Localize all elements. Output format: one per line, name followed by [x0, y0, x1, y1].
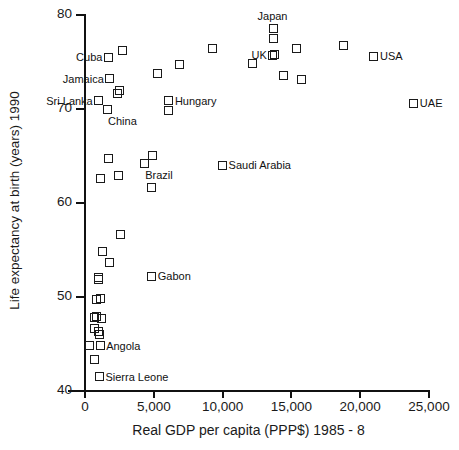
data-point-label: Gabon [158, 271, 191, 282]
x-tick-mark [222, 390, 224, 398]
x-axis-title: Real GDP per capita (PPP$) 1985 - 8 [68, 422, 429, 438]
data-point-label: Hungary [175, 96, 217, 107]
y-tick-label: 60 [42, 195, 72, 209]
data-point-label: UAE [420, 98, 443, 109]
data-point-marker[interactable] [208, 44, 217, 53]
data-point-marker[interactable] [90, 355, 99, 364]
y-tick-mark [76, 296, 84, 298]
data-point-marker[interactable] [164, 106, 173, 115]
data-point-marker[interactable] [279, 71, 288, 80]
data-point-label: UK [252, 50, 267, 61]
x-tick-label: 10,000 [202, 400, 243, 414]
x-axis-line [68, 390, 430, 392]
data-point-label: Sierra Leone [105, 372, 168, 383]
data-point-marker[interactable] [96, 174, 105, 183]
data-point-marker[interactable] [153, 69, 162, 78]
data-point-marker[interactable] [116, 230, 125, 239]
data-point-marker[interactable] [104, 154, 113, 163]
data-point-marker[interactable] [339, 41, 348, 50]
data-point-marker[interactable] [269, 34, 278, 43]
data-point-marker[interactable] [148, 151, 157, 160]
data-point-marker[interactable] [97, 314, 106, 323]
data-point-label: USA [380, 51, 403, 62]
x-axis-title-text: Real GDP per capita (PPP$) 1985 - 8 [132, 422, 364, 438]
x-tick-mark [359, 390, 361, 398]
x-tick-mark [153, 390, 155, 398]
y-tick-mark [76, 202, 84, 204]
x-tick-mark [84, 390, 86, 398]
data-point-label: China [108, 116, 137, 127]
data-point-marker[interactable] [175, 60, 184, 69]
data-point-marker[interactable] [292, 44, 301, 53]
data-point-marker[interactable] [140, 159, 149, 168]
y-tick-mark [76, 14, 84, 16]
data-point-marker[interactable] [164, 96, 173, 105]
data-point-marker[interactable] [105, 258, 114, 267]
data-point-label: Brazil [145, 170, 173, 181]
data-point-marker[interactable] [105, 74, 114, 83]
data-point-marker[interactable] [104, 53, 113, 62]
data-point-label: Saudi Arabia [229, 160, 291, 171]
data-point-marker[interactable] [115, 86, 124, 95]
data-point-marker[interactable] [96, 294, 105, 303]
x-tick-label: 5,000 [137, 400, 171, 414]
data-point-label: Angola [106, 341, 140, 352]
x-tick-mark [290, 390, 292, 398]
data-point-marker[interactable] [118, 46, 127, 55]
data-point-marker[interactable] [147, 272, 156, 281]
y-tick-mark [76, 390, 84, 392]
data-point-marker[interactable] [218, 161, 227, 170]
y-tick-label: 50 [42, 289, 72, 303]
data-point-marker[interactable] [269, 24, 278, 33]
data-point-marker[interactable] [85, 341, 94, 350]
y-tick-label: 40 [42, 383, 72, 397]
y-tick-mark [76, 108, 84, 110]
x-tick-label: 25,000 [408, 400, 449, 414]
data-point-marker[interactable] [95, 372, 104, 381]
y-tick-label: 80 [42, 7, 72, 21]
data-point-label: Jamaica [63, 74, 104, 85]
x-tick-label: 0 [81, 400, 89, 414]
data-point-marker[interactable] [96, 341, 105, 350]
data-point-marker[interactable] [297, 75, 306, 84]
data-point-marker[interactable] [94, 275, 103, 284]
y-axis-line [84, 14, 86, 392]
x-tick-mark [428, 390, 430, 398]
data-point-marker[interactable] [94, 96, 103, 105]
data-point-label: Sri Lanka [46, 96, 92, 107]
data-point-marker[interactable] [270, 50, 279, 59]
data-point-marker[interactable] [95, 330, 104, 339]
data-point-marker[interactable] [409, 99, 418, 108]
data-point-marker[interactable] [114, 171, 123, 180]
data-point-label: Japan [258, 11, 288, 22]
plot-area: 8070605040 05,00010,00015,00020,00025,00… [0, 0, 459, 450]
data-point-marker[interactable] [147, 183, 156, 192]
data-point-label: Cuba [76, 52, 102, 63]
data-point-marker[interactable] [369, 52, 378, 61]
x-tick-label: 20,000 [340, 400, 381, 414]
data-point-marker[interactable] [103, 105, 112, 114]
scatter-chart-figure: Life expectancy at birth (years) 1990 80… [0, 0, 459, 450]
data-point-marker[interactable] [98, 247, 107, 256]
x-tick-label: 15,000 [271, 400, 312, 414]
